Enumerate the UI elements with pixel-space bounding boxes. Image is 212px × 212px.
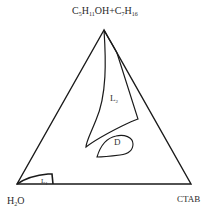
formula-sub: 16 (132, 11, 138, 17)
ternary-diagram (0, 0, 212, 212)
triangle-outline (17, 30, 191, 184)
region-label-l2: L2 (110, 93, 118, 103)
formula-text: C (72, 5, 79, 16)
region-label-sub: 2 (116, 99, 119, 104)
formula-text: OH+C (95, 5, 122, 16)
vertex-label-top: C5H11OH+C7H16 (72, 6, 138, 16)
formula-text: H (124, 5, 131, 16)
formula-text: O (17, 195, 24, 206)
formula-text: H (82, 5, 89, 16)
region-label-d: D (114, 137, 121, 147)
region-label-l1: L1 (41, 177, 48, 185)
vertex-label-bottom-right: CTAB (177, 194, 200, 204)
vertex-label-bottom-left: H2O (7, 196, 24, 206)
region-label-sub: 1 (45, 181, 48, 186)
